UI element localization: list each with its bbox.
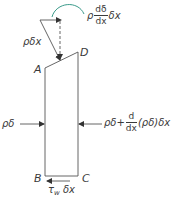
right-pressure-prefix: ρδ+ xyxy=(104,117,125,128)
fraction-numerator: dδ xyxy=(94,5,107,16)
arrowhead-top-icon xyxy=(56,17,62,23)
point-label-b: B xyxy=(34,173,42,184)
weight-component-prefix: ρ xyxy=(87,10,93,21)
fraction: ddx xyxy=(126,112,137,133)
curved-arrow-icon xyxy=(52,5,84,17)
weight-arrow xyxy=(40,20,60,60)
fraction: dδdx xyxy=(94,5,107,26)
fraction-denominator: dx xyxy=(126,123,137,133)
wall-shear-label: τw δx xyxy=(48,185,75,197)
point-label-c: C xyxy=(82,173,90,184)
weight-component-label: ρdδdxδx xyxy=(87,5,121,26)
wall-shear-suffix: δx xyxy=(60,184,75,195)
right-pressure-label: ρδ+ddx(ρδ)δx xyxy=(104,112,170,133)
diagram-svg xyxy=(0,0,175,200)
element-outline xyxy=(45,52,78,176)
weight-label: ρδx xyxy=(23,37,41,47)
free-body-diagram: A D B C ρδx ρdδdxδx ρδ ρδ+ddx(ρδ)δx τw δ… xyxy=(0,0,175,200)
left-pressure-label: ρδ xyxy=(2,119,14,129)
right-pressure-suffix: (ρδ)δx xyxy=(138,117,170,128)
point-label-d: D xyxy=(80,47,88,58)
fraction-numerator: d xyxy=(126,112,137,123)
weight-component-suffix: δx xyxy=(109,10,121,21)
point-label-a: A xyxy=(34,64,42,75)
fraction-denominator: dx xyxy=(94,16,107,26)
